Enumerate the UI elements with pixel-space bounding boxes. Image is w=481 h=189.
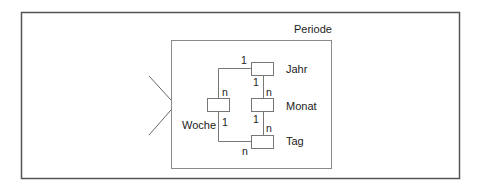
diagram-canvas: Periode Jahr Monat Woche Tag 1 n 1 n 1 n… bbox=[0, 0, 481, 189]
entity-label-tag: Tag bbox=[286, 135, 304, 147]
cardinality-woche-tag-from: 1 bbox=[222, 116, 228, 128]
entity-box-monat bbox=[252, 99, 274, 112]
cardinality-monat-tag-to: n bbox=[266, 122, 272, 134]
entity-box-woche bbox=[208, 99, 230, 112]
cardinality-jahr-woche-from: 1 bbox=[241, 54, 247, 66]
entity-box-tag bbox=[252, 136, 274, 149]
entity-label-monat: Monat bbox=[286, 100, 317, 112]
cardinality-jahr-monat-to: n bbox=[266, 86, 272, 98]
entity-label-woche: Woche bbox=[182, 119, 216, 131]
periode-title: Periode bbox=[294, 23, 332, 35]
cardinality-jahr-woche-to: n bbox=[222, 86, 228, 98]
cardinality-woche-tag-to: n bbox=[242, 145, 248, 157]
cardinality-jahr-monat-from: 1 bbox=[253, 76, 259, 88]
entity-label-jahr: Jahr bbox=[286, 63, 308, 75]
entity-box-jahr bbox=[252, 63, 274, 76]
cardinality-monat-tag-from: 1 bbox=[253, 113, 259, 125]
outer-frame bbox=[22, 13, 460, 179]
